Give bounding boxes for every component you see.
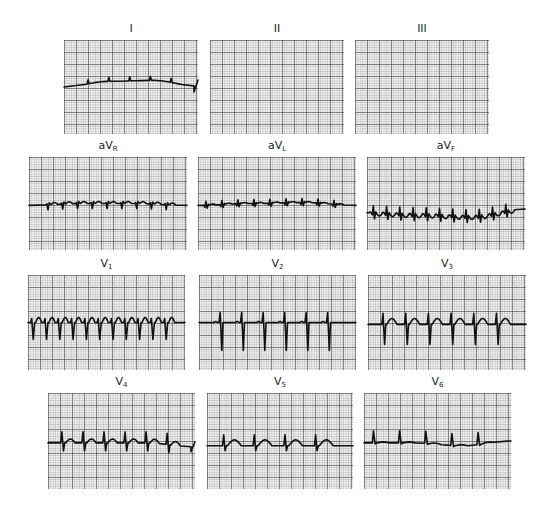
lead-label-main: aV [98,139,112,152]
lead-label-main: II [274,22,281,35]
ecg-trace [28,318,185,340]
ecg-grid-paper [64,40,198,134]
lead-label-subscript: 3 [449,263,453,271]
ecg-grid-paper [48,393,195,489]
lead-label-main: V [441,257,449,270]
ecg-trace [207,435,353,451]
lead-panel-v4: V4 [48,393,195,489]
lead-label: V1 [28,258,185,273]
lead-panel-ii: II [210,40,344,134]
lead-label: aVF [367,140,525,155]
lead-label-main: aV [268,139,282,152]
lead-panel-v3: V3 [368,275,526,370]
ecg-trace [367,204,525,222]
lead-label-main: III [417,22,427,35]
lead-label-subscript: 2 [279,263,283,271]
lead-label-main: V [272,257,280,270]
lead-panel-v1: V1 [28,275,185,370]
ecg-trace [368,313,526,344]
ecg-grid-paper [367,157,525,250]
lead-label-main: V [274,375,282,388]
lead-label: I [64,23,198,35]
lead-label: aVL [198,140,356,155]
ecg-trace [29,202,187,210]
lead-label-subscript: 6 [439,381,443,389]
lead-label-main: V [432,375,440,388]
lead-panel-v6: V6 [364,393,511,489]
ecg-grid-paper [198,157,356,250]
lead-label: V2 [199,258,356,273]
lead-panel-avl: aVL [198,157,356,250]
lead-label: II [210,23,344,35]
lead-label: V5 [207,376,353,391]
lead-label-main: V [116,375,124,388]
lead-label: III [355,23,489,35]
ecg-trace [364,431,511,447]
lead-label-subscript: 4 [123,381,127,389]
ecg-grid-paper [210,40,344,134]
lead-panel-iii: III [355,40,489,134]
ecg-grid-paper [207,393,353,489]
lead-label-subscript: R [113,145,118,153]
ecg-trace [198,199,356,209]
ecg-grid-paper [199,275,356,370]
lead-label-main: V [101,257,109,270]
lead-label-main: I [129,22,132,35]
ecg-trace [48,432,195,453]
ecg-trace [199,313,356,351]
lead-panel-avr: aVR [29,157,187,250]
lead-label: V4 [48,376,195,391]
lead-panel-v2: V2 [199,275,356,370]
lead-label-subscript: 1 [108,263,112,271]
lead-label-subscript: 5 [282,381,286,389]
lead-label-subscript: L [282,145,286,153]
lead-label: V3 [368,258,526,273]
lead-label-subscript: F [451,145,455,153]
ecg-grid-paper [29,157,187,250]
lead-panel-avf: aVF [367,157,525,250]
ecg-grid-paper [355,40,489,134]
lead-panel-v5: V5 [207,393,353,489]
lead-label: V6 [364,376,511,391]
ecg-grid-paper [364,393,511,489]
lead-label-main: aV [437,139,451,152]
lead-panel-i: I [64,40,198,134]
lead-label: aVR [29,140,187,155]
ecg-grid-paper [368,275,526,370]
ecg-trace [64,76,198,92]
ecg-grid-paper [28,275,185,370]
